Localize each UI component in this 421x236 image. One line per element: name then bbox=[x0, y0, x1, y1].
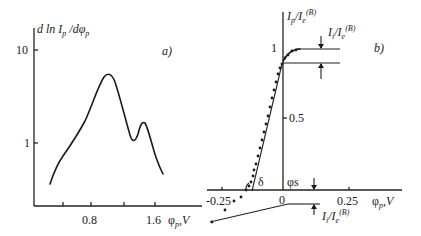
panel-a-xlabel: φp,V bbox=[168, 213, 191, 229]
arrow-down-icon bbox=[318, 44, 324, 49]
panel-b-ytick-label-05: 0.5 bbox=[289, 111, 304, 125]
panel-b-delta-label: δ bbox=[258, 175, 264, 189]
panel-b-xtick-label-m025: -0.25 bbox=[206, 194, 231, 208]
panel-b-fit-line bbox=[252, 64, 282, 191]
arrow-up-icon bbox=[311, 204, 317, 209]
panel-b-ion-label-bottom: Ii/Ie(B) bbox=[321, 208, 350, 225]
panel-b-xlabel: φp,V bbox=[372, 194, 395, 210]
panel-b-tag: b) bbox=[374, 41, 384, 55]
arrow-down-icon bbox=[311, 185, 317, 190]
panel-a-xtick-label-16: 1.6 bbox=[146, 213, 161, 227]
panel-a-ytick-label-1: 1 bbox=[24, 136, 30, 150]
panel-a-curve bbox=[50, 74, 163, 184]
panel-b-xtick-label-025: 0.25 bbox=[337, 194, 358, 208]
panel-b-ylabel: Ip/Ie(B) bbox=[286, 8, 316, 25]
figure: 10 1 0.8 1.6 d ln Ip /dφp φp,V a) 1 0.5 … bbox=[0, 0, 421, 236]
panel-a-ylabel: d ln Ip /dφp bbox=[37, 22, 89, 38]
panel-a: 10 1 0.8 1.6 d ln Ip /dφp φp,V a) bbox=[16, 22, 202, 229]
panel-b: 1 0.5 -0.25 0 0.25 Ip/Ie(B) φp,V b) Ii/I… bbox=[206, 8, 402, 225]
arrow-up-icon bbox=[318, 63, 324, 68]
panel-a-ytick-label-10: 10 bbox=[16, 43, 28, 57]
panel-b-ytick-label-1: 1 bbox=[271, 41, 277, 55]
panel-a-tag: a) bbox=[162, 44, 172, 58]
panel-b-ion-label-top: Ii/Ie(B) bbox=[327, 24, 356, 41]
panel-b-phis-label: φs bbox=[287, 175, 299, 189]
panel-a-xtick-label-08: 0.8 bbox=[82, 213, 97, 227]
